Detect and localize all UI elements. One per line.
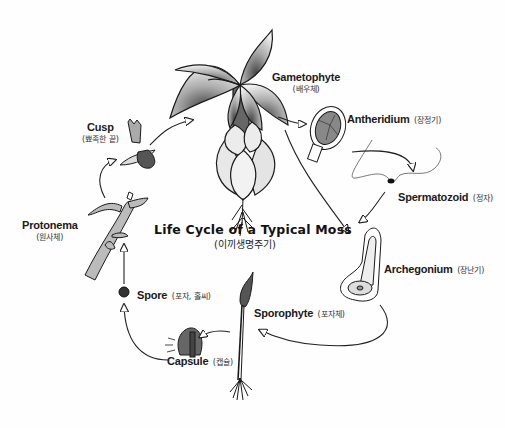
cusp-illustration — [120, 119, 155, 168]
gametophyte-label-en: Gametophyte — [272, 72, 340, 83]
capsule-label-en: Capsule — [167, 355, 208, 367]
arrow-spermatozoid-to-archegonium — [360, 192, 385, 222]
arrow-protonema-to-cusp — [100, 160, 115, 198]
diagram-artwork — [0, 0, 505, 428]
spermatozoid-illustration — [352, 140, 441, 184]
cusp-label: Cusp (뾰족한 끝) — [82, 122, 119, 144]
arrow-sporophyte-to-capsule — [200, 331, 230, 337]
arrow-antheridium-to-spermatozoid — [352, 151, 413, 170]
cusp-label-en: Cusp — [82, 122, 119, 133]
arrow-cusp-to-gametophyte — [150, 120, 192, 145]
capsule-label-ko: (캡슐) — [213, 358, 233, 367]
sporophyte-label-en: Sporophyte — [254, 307, 313, 319]
spermatozoid-label-en: Spermatozoid — [398, 191, 468, 203]
spermatozoid-label-ko: (정자) — [473, 194, 493, 203]
diagram-title-ko: (이끼생명주기) — [154, 240, 336, 250]
spore-label-en: Spore — [137, 289, 167, 301]
capsule-label: Capsule (캡슐) — [167, 352, 233, 368]
archegonium-label-ko: (장난기) — [457, 266, 484, 275]
antheridium-label-ko: (장정기) — [414, 116, 441, 125]
protonema-label: Protonema (원사체) — [22, 220, 78, 242]
gametophyte-illustration — [170, 30, 288, 236]
cusp-label-ko: (뾰족한 끝) — [82, 136, 119, 144]
spore-label: Spore (포자, 홀씨) — [137, 286, 211, 302]
diagram-title-en: Life Cycle of a Typical Moss — [154, 224, 336, 237]
sporophyte-label: Sporophyte (포자체) — [254, 304, 345, 320]
antheridium-label: Antheridium (장정기) — [347, 110, 441, 126]
sporophyte-illustration — [230, 272, 253, 400]
moss-life-cycle-diagram: Gametophyte (배우체) Antheridium (장정기) Sper… — [0, 0, 505, 428]
spore-label-ko: (포자, 홀씨) — [172, 292, 211, 301]
gametophyte-label-ko: (배우체) — [272, 86, 340, 94]
archegonium-label-en: Archegonium — [384, 263, 453, 275]
archegonium-illustration — [341, 228, 381, 301]
sporophyte-label-ko: (포자체) — [318, 310, 345, 319]
spore-illustration — [119, 287, 129, 297]
arrow-capsule-to-spore — [124, 305, 168, 360]
antheridium-label-en: Antheridium — [347, 113, 410, 125]
protonema-illustration — [85, 192, 148, 280]
archegonium-label: Archegonium (장난기) — [384, 260, 484, 276]
diagram-title: Life Cycle of a Typical Moss (이끼생명주기) — [154, 224, 336, 250]
gametophyte-label: Gametophyte (배우체) — [272, 72, 340, 94]
protonema-label-en: Protonema — [22, 220, 78, 231]
spermatozoid-label: Spermatozoid (정자) — [398, 188, 493, 204]
antheridium-illustration — [305, 102, 352, 163]
protonema-label-ko: (원사체) — [22, 234, 78, 242]
